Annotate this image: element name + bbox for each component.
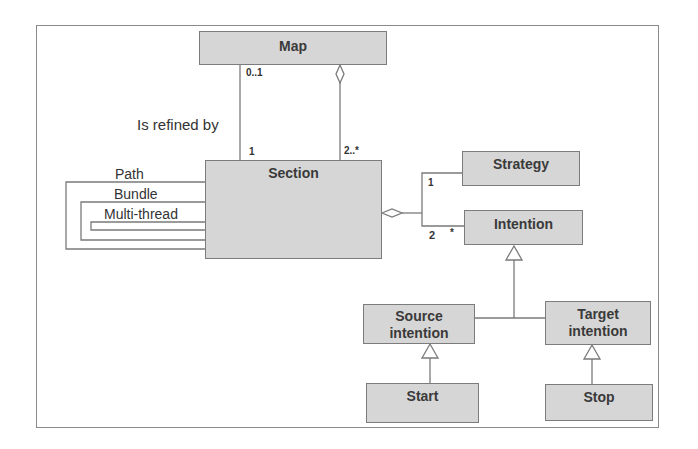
class-source-intention-line2: intention (364, 325, 474, 342)
class-target-intention-line2: intention (546, 323, 650, 340)
class-section[interactable]: Section (205, 160, 382, 259)
class-source-intention-line1: Source (364, 308, 474, 325)
class-start[interactable]: Start (366, 383, 479, 423)
class-map-label: Map (200, 38, 386, 55)
mult-intention: 2 (429, 229, 435, 241)
aggregation-diamond-section (382, 209, 402, 217)
class-stop-label: Stop (546, 389, 652, 406)
aggregation-diamond-map (336, 65, 344, 83)
generalization-arrow-intention (506, 246, 522, 260)
class-intention-label: Intention (465, 216, 582, 233)
class-section-label: Section (206, 165, 381, 182)
mult-strategy: 1 (428, 177, 434, 188)
class-map[interactable]: Map (199, 31, 387, 65)
multi-thread-label: Multi-thread (104, 206, 178, 222)
mult-intention-star: * (450, 227, 454, 238)
mult-map-refine: 0..1 (246, 67, 263, 78)
bundle-label: Bundle (114, 186, 158, 202)
class-target-intention-line1: Target (546, 306, 650, 323)
class-start-label: Start (367, 388, 478, 405)
class-strategy[interactable]: Strategy (462, 151, 580, 186)
class-stop[interactable]: Stop (545, 384, 653, 421)
mult-section-aggregate: 2..* (344, 145, 359, 156)
generalization-arrow-target (584, 345, 600, 359)
generalization-arrow-source (422, 344, 438, 358)
mult-section-refine: 1 (249, 146, 255, 157)
path-label: Path (115, 166, 144, 182)
is-refined-by-label: Is refined by (137, 116, 219, 133)
class-strategy-label: Strategy (463, 156, 579, 173)
class-source-intention[interactable]: Source intention (363, 304, 475, 344)
class-target-intention[interactable]: Target intention (545, 301, 651, 345)
class-intention[interactable]: Intention (464, 210, 583, 245)
